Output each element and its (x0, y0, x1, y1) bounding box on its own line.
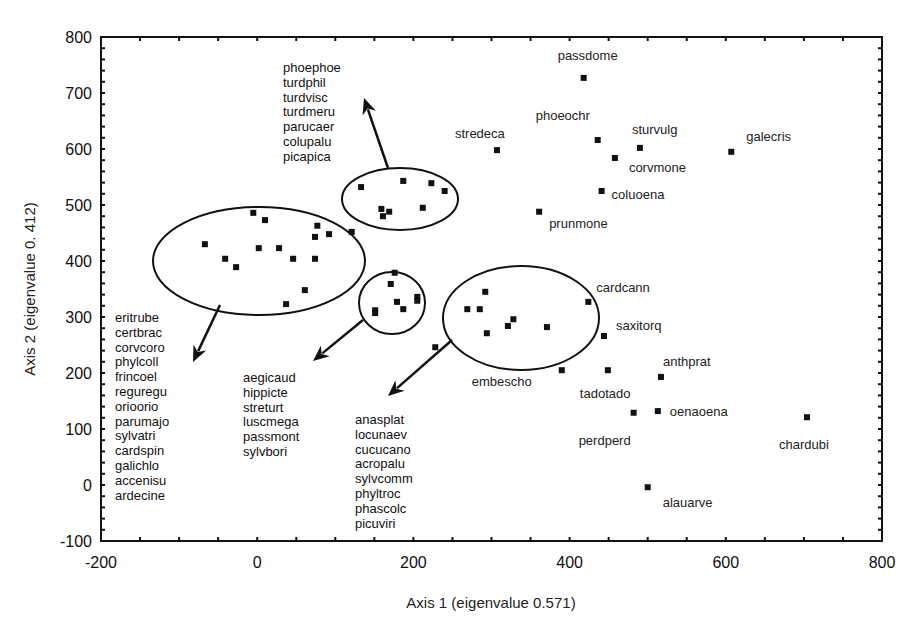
data-point (510, 316, 516, 322)
data-point-stredeca (494, 147, 500, 153)
data-point (432, 344, 438, 350)
y-tick-label: 0 (83, 477, 92, 494)
species-list-item: passmont (243, 429, 300, 444)
species-list-item: turdmeru (283, 104, 335, 119)
data-point-cardcann (585, 299, 591, 305)
species-list-item: orioorio (115, 399, 158, 414)
y-axis-title: Axis 2 (eigenvalue 0. 412) (21, 202, 38, 375)
data-point (233, 264, 239, 270)
data-point-tadotado (605, 367, 611, 373)
species-list-item: reguregu (115, 384, 167, 399)
data-point-galecris (728, 149, 734, 155)
data-point (420, 205, 426, 211)
data-point-embescho (559, 367, 565, 373)
data-point (202, 241, 208, 247)
species-list-item: cardspin (115, 443, 164, 458)
data-point-anthprat (658, 374, 664, 380)
data-point-corvmone (612, 155, 618, 161)
data-point (484, 330, 490, 336)
species-list-item: turdphil (283, 75, 326, 90)
point-label-saxitorq: saxitorq (616, 318, 662, 333)
y-tick-label: 600 (65, 141, 92, 158)
species-list-item: parumajo (115, 414, 169, 429)
point-label-phoeochr: phoeochr (536, 108, 591, 123)
data-point (283, 301, 289, 307)
x-tick-label: 600 (712, 554, 739, 571)
data-point-coluoena (599, 188, 605, 194)
data-point (378, 206, 384, 212)
y-tick-label: 500 (65, 197, 92, 214)
data-point (276, 245, 282, 251)
data-point-alauarve (645, 484, 651, 490)
species-list-item: picuviri (355, 516, 396, 531)
species-list-item: luscmega (243, 414, 299, 429)
data-point (312, 234, 318, 240)
species-list-item: eritrube (115, 310, 159, 325)
species-list-item: certbrac (115, 325, 162, 340)
data-point (372, 310, 378, 316)
y-tick-label: 100 (65, 421, 92, 438)
data-point (314, 223, 320, 229)
data-point-prunmone (536, 209, 542, 215)
data-point (428, 180, 434, 186)
data-point (544, 324, 550, 330)
x-tick-label: 200 (400, 554, 427, 571)
species-list-item: corvcoro (115, 340, 165, 355)
species-list-item: phylcoll (115, 354, 158, 369)
data-point-passdome (581, 75, 587, 81)
species-list-item: aegicaud (243, 370, 296, 385)
point-label-cardcann: cardcann (596, 280, 649, 295)
data-point (400, 306, 406, 312)
data-point-saxitorq (601, 333, 607, 339)
data-point-perdperd (631, 410, 637, 416)
species-list-item: sylvatri (115, 428, 156, 443)
data-point (388, 281, 394, 287)
point-label-prunmone: prunmone (549, 216, 608, 231)
data-point (302, 287, 308, 293)
data-point-chardubi (804, 414, 810, 420)
data-point (326, 231, 332, 237)
point-label-stredeca: stredeca (455, 126, 506, 141)
point-label-coluoena: coluoena (612, 187, 666, 202)
species-list-item: streturt (243, 400, 284, 415)
y-tick-label: 200 (65, 365, 92, 382)
species-list-item: turdvisc (283, 90, 328, 105)
data-point-phoeochr (595, 137, 601, 143)
data-point (349, 229, 355, 235)
species-list-item: phoephoe (283, 60, 341, 75)
species-list-item: sylvbori (243, 444, 287, 459)
species-list-item: phascolc (355, 501, 407, 516)
species-list: anasplatlocunaevcucucanoacropalusylvcomm… (355, 412, 413, 531)
point-label-galecris: galecris (746, 129, 791, 144)
species-list-item: locunaev (355, 427, 408, 442)
data-point (414, 298, 420, 304)
species-list-item: sylvcomm (355, 471, 413, 486)
data-point-sturvulg (637, 145, 643, 151)
point-label-corvmone: corvmone (629, 160, 686, 175)
ordination-scatter-chart: -2000200400600800-1000100200300400500600… (0, 0, 915, 626)
species-list-item: ardecine (115, 488, 165, 503)
species-list-item: phyltroc (355, 486, 401, 501)
data-point (392, 270, 398, 276)
y-tick-label: 700 (65, 85, 92, 102)
species-list-item: hippicte (243, 385, 288, 400)
point-label-oenaoena: oenaoena (670, 404, 729, 419)
data-point (400, 178, 406, 184)
data-point (477, 306, 483, 312)
data-point (312, 256, 318, 262)
point-label-passdome: passdome (558, 48, 618, 63)
data-point-oenaoena (655, 408, 661, 414)
y-tick-label: -100 (60, 533, 92, 550)
x-tick-label: 400 (556, 554, 583, 571)
data-point (380, 213, 386, 219)
y-tick-label: 300 (65, 309, 92, 326)
species-list-item: galichlo (115, 458, 159, 473)
data-point (262, 217, 268, 223)
x-tick-label: 800 (869, 554, 896, 571)
point-label-sturvulg: sturvulg (632, 122, 678, 137)
data-point (250, 210, 256, 216)
data-point (394, 299, 400, 305)
species-list-item: accenisu (115, 473, 166, 488)
species-list-item: acropalu (355, 456, 405, 471)
x-tick-label: 0 (253, 554, 262, 571)
